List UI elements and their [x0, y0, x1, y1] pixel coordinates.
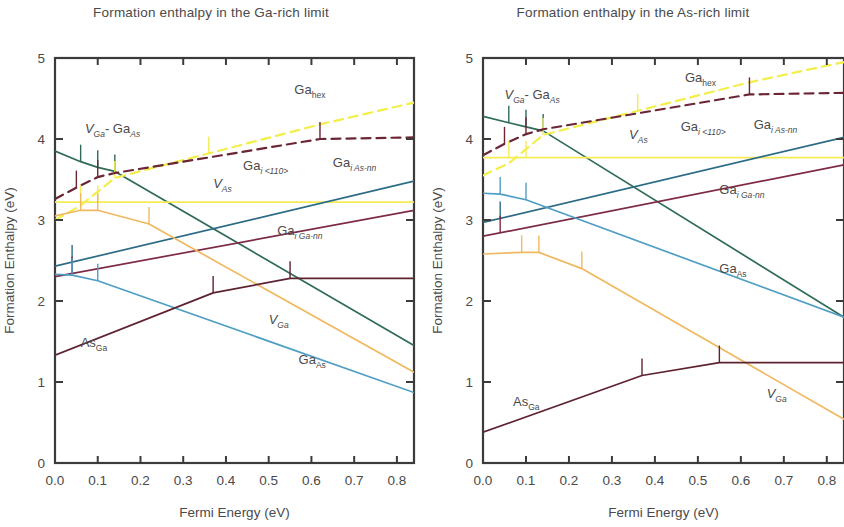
curve-ga-i-ga-nn: [483, 165, 844, 236]
plot-frame: [55, 58, 414, 463]
x-tick-label: 0.7: [774, 473, 793, 488]
x-tick-label: 0.1: [517, 473, 536, 488]
curve-ga-i-110-: [483, 93, 844, 155]
x-axis-title: Fermi Energy (eV): [179, 505, 289, 520]
curve-as-ga: [483, 363, 844, 433]
x-tick-label: 0.6: [302, 473, 321, 488]
x-tick-label: 0.7: [345, 473, 364, 488]
x-tick-label: 0.3: [174, 473, 193, 488]
y-axis-title: Formation Enthalpy (eV): [430, 187, 445, 333]
curve-label-as-ga: AsGa: [513, 394, 540, 412]
x-tick-label: 0.4: [646, 473, 665, 488]
y-tick-label: 4: [37, 132, 45, 147]
y-tick-label: 0: [465, 456, 473, 471]
y-tick-label: 1: [37, 375, 45, 390]
curve-label-v-as: VAs: [213, 176, 232, 194]
curve-v-ga-ga-as: [55, 151, 414, 345]
x-tick-label: 0.8: [388, 473, 407, 488]
y-tick-label: 4: [465, 132, 473, 147]
y-tick-label: 1: [465, 375, 473, 390]
y-tick-label: 3: [465, 213, 473, 228]
y-tick-label: 5: [37, 51, 45, 66]
x-tick-label: 0.6: [731, 473, 750, 488]
y-tick-label: 5: [465, 51, 473, 66]
y-tick-label: 2: [37, 294, 45, 309]
curve-label-ga-i-110-: Gai <110>: [681, 119, 726, 137]
chart-ga-rich: 0.00.10.20.30.40.50.60.70.8012345Fermi E…: [0, 0, 422, 527]
x-tick-label: 0.1: [88, 473, 107, 488]
curve-v-ga-ga-as: [483, 116, 844, 317]
x-tick-label: 0.2: [560, 473, 579, 488]
curve-v-ga: [483, 252, 844, 419]
x-tick-label: 0.5: [259, 473, 278, 488]
x-tick-label: 0.3: [603, 473, 622, 488]
x-tick-label: 0.0: [474, 473, 493, 488]
chart-as-rich: 0.00.10.20.30.40.50.60.70.8012345Fermi E…: [422, 0, 844, 527]
formation-enthalpy-figure: Formation enthalpy in the Ga-rich limit …: [0, 0, 844, 527]
curve-label-ga-i-as-nn: Gai As-nn: [754, 117, 798, 135]
y-axis-title: Formation Enthalpy (eV): [2, 187, 17, 333]
curve-v-ga: [55, 210, 414, 372]
curve-label-ga-i-ga-nn: Gai Ga-nn: [277, 223, 322, 241]
x-tick-label: 0.4: [217, 473, 236, 488]
curve-label-ga-i-110-: Gai <110>: [243, 158, 288, 176]
x-tick-label: 0.2: [131, 473, 150, 488]
curve-label-ga-as: GaAs: [299, 352, 326, 370]
y-tick-label: 3: [37, 213, 45, 228]
y-tick-label: 2: [465, 294, 473, 309]
panel-as-rich: Formation enthalpy in the As-rich limit …: [422, 0, 844, 527]
x-tick-label: 0.8: [817, 473, 836, 488]
curve-label-v-ga: VGa: [269, 312, 289, 330]
panel-ga-rich: Formation enthalpy in the Ga-rich limit …: [0, 0, 422, 527]
curve-ga-i-ga-nn: [55, 210, 414, 276]
curve-label-v-as: VAs: [629, 127, 648, 145]
curve-label-v-ga-ga-as: VGa- GaAs: [85, 121, 141, 139]
curve-as-ga: [55, 278, 414, 355]
curve-label-v-ga-ga-as: VGa- GaAs: [504, 87, 560, 105]
curve-label-ga-hex: Gahex: [294, 82, 326, 100]
x-tick-label: 0.0: [46, 473, 65, 488]
x-tick-label: 0.5: [688, 473, 707, 488]
x-axis-title: Fermi Energy (eV): [608, 505, 718, 520]
curve-ga-i-as-nn: [55, 181, 414, 266]
curve-ga-as: [483, 193, 844, 317]
curve-label-as-ga: AsGa: [81, 335, 108, 353]
curve-label-ga-hex: Gahex: [685, 70, 717, 88]
curve-label-v-ga: VGa: [767, 386, 787, 404]
curve-ga-i-as-nn: [483, 137, 844, 222]
curve-label-ga-i-as-nn: Gai As-nn: [333, 155, 377, 173]
y-tick-label: 0: [37, 456, 45, 471]
